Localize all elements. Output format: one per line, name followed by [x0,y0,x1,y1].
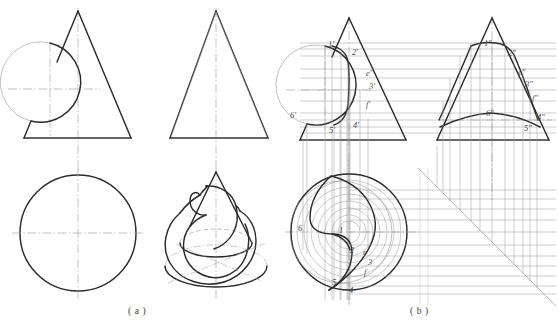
point-label-e-top: e [363,248,367,257]
point-label-1-front: 1' [328,40,334,49]
point-label-3-side: 3" [525,80,533,89]
panel-a-front-view [0,8,131,168]
point-label-2-top: 2 [350,246,354,255]
point-label-6-front: 6' [290,111,296,120]
point-label-f-top: f [364,268,366,277]
caption-a: ( a ) [128,306,146,316]
point-label-6-top: 6 [298,224,302,233]
panel-a-top-view [12,168,145,299]
caption-b: ( b ) [410,306,429,316]
point-label-3-front: 3' [369,82,375,91]
panel-b-side-view [437,16,552,200]
panel-b-miter-construction [418,146,556,306]
panel-a-pictorial-view [165,168,267,300]
point-label-2-side: 2" [508,49,516,58]
panel-b-front-view [276,16,406,300]
point-label-4-top: 4 [349,286,353,295]
point-label-1-side: 1" [484,39,492,48]
point-label-5-top: 5 [332,278,336,287]
point-label-4-side: 4" [537,113,545,122]
point-label-f-side: f" [532,94,538,103]
figure-canvas: 1' 2' e' 3' f' 6' 5' 4' 1" 2" e" 3" f" 6… [0,0,558,336]
point-label-4-front: 4' [353,121,359,130]
point-label-6-side: 6" [486,109,494,118]
point-label-1-top: 1 [339,226,343,235]
panel-b-horizontal-projectors [300,43,556,133]
point-label-2-front: 2' [352,48,358,57]
point-label-e-front: e' [366,69,372,78]
point-label-3-top: 3 [368,258,372,267]
point-label-f-front: f' [366,100,370,109]
point-label-5-front: 5' [329,126,335,135]
point-label-e-side: e" [518,68,525,77]
panel-a-side-view [170,8,268,168]
point-label-5-side: 5" [524,124,532,133]
engineering-drawing [0,0,558,336]
panel-b-top-view [285,160,556,305]
